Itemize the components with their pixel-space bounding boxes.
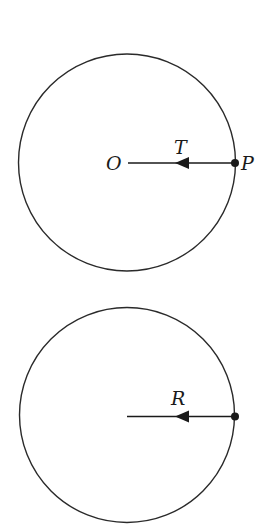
top-arrowhead-icon [175,157,189,169]
bottom-point [231,413,239,421]
top-figure: O T P [19,54,256,271]
top-point-p [231,159,239,167]
label-p: P [240,152,255,174]
bottom-arrowhead-icon [175,411,189,423]
bottom-figure: R [20,308,240,523]
label-r: R [170,387,185,409]
diagram-canvas: O T P R [0,0,280,525]
bottom-circle [20,308,235,523]
label-o: O [106,152,122,174]
label-t: T [174,136,188,158]
